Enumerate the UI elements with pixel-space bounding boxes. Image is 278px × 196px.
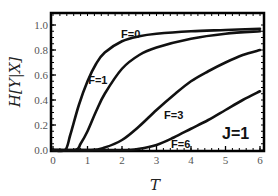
x-tick-label: 1 <box>85 154 91 166</box>
x-tick-label: 3 <box>154 154 160 166</box>
curve-label: F=1 <box>88 74 107 86</box>
x-tick-label: 0 <box>50 154 56 166</box>
y-tick-label: 0.0 <box>34 144 48 156</box>
curve-label: F=6 <box>171 138 190 150</box>
x-tick-label: 6 <box>257 154 263 166</box>
x-axis-title: T <box>150 176 161 194</box>
x-tick-label: 2 <box>119 154 125 166</box>
y-tick-label: 0.6 <box>34 69 48 81</box>
curve-labels: F=0F=1F=3F=6 <box>88 28 190 150</box>
y-tick-label: 0.2 <box>34 119 48 131</box>
curve-label: F=3 <box>164 109 183 121</box>
y-tick-label: 0.4 <box>34 94 48 106</box>
y-tick-label: 1.0 <box>34 19 48 31</box>
line-chart: 01234560.00.20.40.60.81.0 F=0F=1F=3F=6 T… <box>0 0 278 196</box>
x-tick-label: 4 <box>188 154 194 166</box>
y-tick-label: 0.8 <box>34 44 48 56</box>
j-annotation: J=1 <box>222 125 249 142</box>
y-axis-title: H[Y|X] <box>6 57 24 109</box>
curve-label: F=0 <box>121 28 140 40</box>
x-tick-label: 5 <box>223 154 229 166</box>
